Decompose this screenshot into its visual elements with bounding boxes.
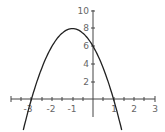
y-tick-label: 6 [83,41,89,51]
x-tick-label: -2 [47,104,56,114]
parabola-curve [23,29,121,130]
x-tick-label: -1 [68,104,77,114]
parabola-chart: -3 -2 -1 1 2 3 2 4 6 8 10 [0,0,165,132]
x-tick-label: 3 [152,104,158,114]
x-tick-label: 2 [131,104,137,114]
y-tick-label: 8 [83,23,89,33]
y-tick-label: 10 [78,6,90,16]
y-tick-label: 4 [83,59,89,69]
y-tick-label: 2 [83,77,89,87]
